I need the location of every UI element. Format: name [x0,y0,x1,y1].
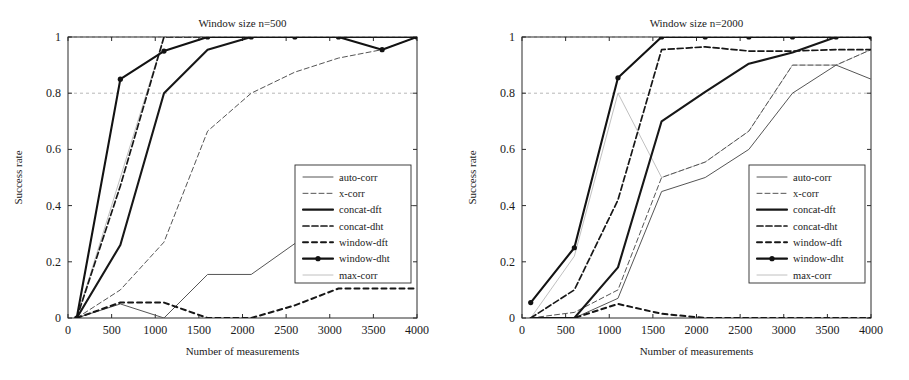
series-marker-window-dht [336,34,341,39]
series-marker-window-dht [572,245,577,250]
y-axis-label: Success rate [466,150,478,204]
x-axis-label: Number of measurements [186,345,300,357]
x-tick-label: 4000 [405,323,429,337]
x-tick-label: 3000 [318,323,342,337]
legend-label-concat-dft: concat-dft [339,204,382,215]
legend-label-x-corr: x-corr [793,188,819,199]
chart-panel-right: Window size n=20000500100015002000250030… [454,0,908,380]
series-line-window-dft [77,288,417,318]
y-tick-label: 0.4 [500,199,515,213]
x-axis-label: Number of measurements [640,345,754,357]
y-tick-label: 0.8 [46,86,61,100]
series-marker-window-dht [249,34,254,39]
legend-label-max-corr: max-corr [339,270,378,281]
series-marker-window-dht [528,300,533,305]
y-tick-label: 1 [55,30,61,44]
chart-panel-left: Window size n=50005001000150020002500300… [0,0,454,380]
legend-label-window-dft: window-dft [793,237,842,248]
y-tick-label: 0.6 [500,142,515,156]
x-tick-label: 4000 [859,323,883,337]
legend-label-window-dft: window-dft [339,237,388,248]
x-tick-label: 0 [519,323,525,337]
x-tick-label: 3000 [772,323,796,337]
x-tick-label: 2000 [231,323,255,337]
y-tick-label: 1 [509,30,515,44]
y-tick-label: 0.6 [46,142,61,156]
y-tick-label: 0.2 [500,255,515,269]
legend-marker-window-dht [315,256,320,261]
series-marker-window-dht [703,34,708,39]
y-tick-label: 0.4 [46,199,61,213]
x-tick-label: 1500 [641,323,665,337]
y-axis-label: Success rate [12,150,24,204]
x-tick-label: 1500 [187,323,211,337]
legend-label-x-corr: x-corr [339,188,365,199]
legend-label-auto-corr: auto-corr [793,172,832,183]
x-tick-label: 2500 [728,323,752,337]
series-marker-window-dht [834,34,839,39]
y-tick-label: 0.2 [46,255,61,269]
series-marker-window-dht [161,48,166,53]
series-marker-window-dht [74,315,79,320]
legend-label-window-dht: window-dht [339,253,390,264]
x-tick-label: 1000 [597,323,621,337]
y-tick-label: 0 [509,311,515,325]
chart-svg-right: Window size n=20000500100015002000250030… [454,0,908,380]
x-tick-label: 500 [103,323,121,337]
figure-two-panel-success-rate: Window size n=50005001000150020002500300… [0,0,909,380]
chart-title: Window size n=500 [198,17,287,29]
chart-svg-left: Window size n=50005001000150020002500300… [0,0,454,380]
series-marker-window-dht [414,34,419,39]
legend-label-concat-dht: concat-dht [339,221,383,232]
x-tick-label: 3500 [815,323,839,337]
x-tick-label: 2500 [274,323,298,337]
x-tick-label: 0 [65,323,71,337]
y-tick-label: 0 [55,311,61,325]
series-marker-window-dht [659,34,664,39]
series-marker-window-dht [118,77,123,82]
legend-label-concat-dht: concat-dht [793,221,837,232]
x-tick-label: 500 [557,323,575,337]
legend-label-window-dht: window-dht [793,253,844,264]
series-marker-window-dht [380,47,385,52]
series-marker-window-dht [868,34,873,39]
series-marker-window-dht [292,34,297,39]
y-tick-label: 0.8 [500,86,515,100]
series-marker-window-dht [615,75,620,80]
series-marker-window-dht [790,34,795,39]
x-tick-label: 3500 [361,323,385,337]
legend-label-max-corr: max-corr [793,270,832,281]
x-tick-label: 1000 [143,323,167,337]
legend-label-concat-dft: concat-dft [793,204,836,215]
x-tick-label: 2000 [685,323,709,337]
series-marker-window-dht [746,34,751,39]
legend-marker-window-dht [769,256,774,261]
chart-title: Window size n=2000 [650,17,744,29]
legend-label-auto-corr: auto-corr [339,172,378,183]
series-marker-window-dht [205,34,210,39]
